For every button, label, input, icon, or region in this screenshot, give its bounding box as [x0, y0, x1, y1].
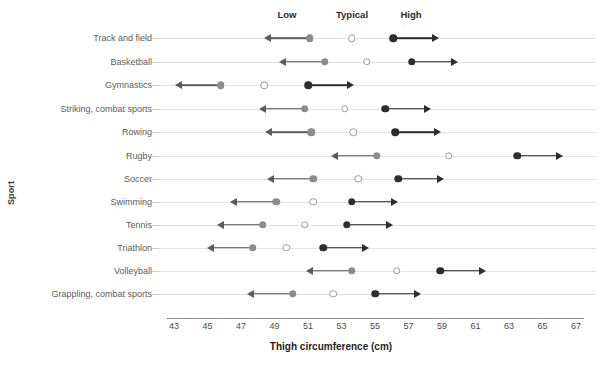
y-axis-tick	[152, 109, 159, 110]
x-axis-tick-label: 45	[202, 321, 212, 331]
y-axis-tick	[152, 38, 159, 39]
low-arrow-head	[259, 105, 266, 113]
low-marker[interactable]	[289, 290, 297, 298]
high-marker[interactable]	[391, 128, 399, 136]
high-arrow-shaft	[395, 131, 435, 133]
x-axis-tick-label: 57	[403, 321, 413, 331]
low-marker[interactable]	[217, 81, 225, 89]
low-marker[interactable]	[321, 58, 329, 66]
high-marker[interactable]	[343, 221, 351, 229]
y-axis-tick	[152, 85, 159, 86]
low-arrow-shaft	[253, 293, 293, 295]
typical-marker[interactable]	[309, 198, 317, 206]
high-arrow-head	[479, 267, 486, 275]
high-arrow-shaft	[517, 155, 557, 157]
plot-area: Track and fieldBasketballGymnasticsStrik…	[0, 0, 602, 371]
low-arrow-head	[279, 58, 286, 66]
typical-marker[interactable]	[301, 221, 309, 229]
low-marker[interactable]	[301, 105, 309, 113]
typical-marker[interactable]	[393, 267, 401, 275]
typical-marker[interactable]	[363, 58, 371, 66]
high-marker[interactable]	[514, 152, 522, 160]
low-arrow-shaft	[236, 201, 276, 203]
high-arrow-shaft	[347, 224, 387, 226]
high-marker[interactable]	[390, 34, 398, 42]
low-marker[interactable]	[309, 175, 317, 183]
low-marker[interactable]	[259, 221, 267, 229]
low-arrow-head	[217, 221, 224, 229]
high-arrow-head	[424, 105, 431, 113]
gridline	[156, 132, 596, 133]
column-header-low: Low	[278, 9, 297, 20]
typical-marker[interactable]	[329, 290, 337, 298]
typical-marker[interactable]	[349, 128, 357, 136]
high-marker[interactable]	[304, 81, 312, 89]
typical-marker[interactable]	[282, 244, 290, 252]
typical-marker[interactable]	[341, 105, 349, 113]
high-arrow-head	[451, 58, 458, 66]
high-marker[interactable]	[371, 290, 379, 298]
high-arrow-head	[556, 152, 563, 160]
high-arrow-head	[437, 175, 444, 183]
low-arrow-shaft	[270, 37, 310, 39]
y-axis-category-label: Swimming	[110, 197, 152, 207]
low-arrow-head	[306, 267, 313, 275]
low-arrow-shaft	[265, 108, 305, 110]
low-arrow-head	[207, 244, 214, 252]
x-axis-tick-label: 49	[269, 321, 279, 331]
x-axis-tick-label: 65	[537, 321, 547, 331]
typical-marker[interactable]	[445, 152, 453, 160]
x-axis-title: Thigh circumference (cm)	[0, 341, 602, 352]
y-axis-category-label: Grappling, combat sports	[51, 289, 152, 299]
low-marker[interactable]	[272, 198, 280, 206]
high-marker[interactable]	[395, 175, 403, 183]
low-arrow-head	[265, 128, 272, 136]
low-arrow-head	[267, 175, 274, 183]
high-arrow-shaft	[412, 61, 452, 63]
low-marker[interactable]	[306, 34, 314, 42]
y-axis-category-label: Basketball	[110, 57, 152, 67]
gridline	[156, 156, 596, 157]
y-axis-tick	[152, 248, 159, 249]
high-marker[interactable]	[348, 198, 356, 206]
typical-marker[interactable]	[355, 175, 363, 183]
y-axis-title: Sport	[6, 145, 16, 205]
gridline	[156, 225, 596, 226]
low-marker[interactable]	[373, 152, 381, 160]
high-marker[interactable]	[319, 244, 327, 252]
x-axis-tick-label: 43	[169, 321, 179, 331]
high-arrow-shaft	[375, 293, 415, 295]
y-axis-tick	[152, 132, 159, 133]
y-axis-tick	[152, 271, 159, 272]
low-marker[interactable]	[249, 244, 257, 252]
high-arrow-head	[347, 81, 354, 89]
y-axis-tick	[152, 225, 159, 226]
y-axis-category-label: Soccer	[124, 174, 152, 184]
low-arrow-shaft	[312, 270, 352, 272]
y-axis-category-label: Tennis	[126, 220, 152, 230]
y-axis-tick	[152, 179, 159, 180]
typical-marker[interactable]	[348, 34, 356, 42]
high-arrow-head	[432, 34, 439, 42]
gridline	[156, 248, 596, 249]
column-header-high: High	[400, 9, 421, 20]
low-arrow-shaft	[223, 224, 263, 226]
low-arrow-head	[331, 152, 338, 160]
gridline	[156, 85, 596, 86]
gridline	[156, 202, 596, 203]
high-marker[interactable]	[408, 58, 416, 66]
low-arrow-shaft	[213, 247, 253, 249]
low-arrow-shaft	[273, 178, 313, 180]
low-arrow-shaft	[337, 155, 377, 157]
typical-marker[interactable]	[261, 81, 269, 89]
low-arrow-head	[247, 290, 254, 298]
low-marker[interactable]	[308, 128, 316, 136]
high-arrow-shaft	[393, 37, 433, 39]
high-marker[interactable]	[381, 105, 389, 113]
column-header-typical: Typical	[336, 9, 368, 20]
low-marker[interactable]	[348, 267, 356, 275]
y-axis-category-label: Track and field	[93, 33, 152, 43]
high-marker[interactable]	[437, 267, 445, 275]
high-arrow-shaft	[385, 108, 425, 110]
y-axis-category-label: Triathlon	[117, 243, 152, 253]
